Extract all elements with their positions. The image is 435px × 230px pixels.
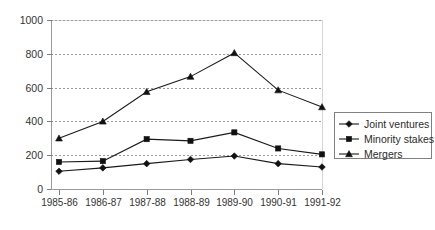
data-point-triangle — [99, 118, 106, 124]
x-tick-label: 1986-87 — [85, 197, 122, 208]
data-point-square — [232, 130, 237, 135]
chart-canvas: 020040060080010001985-861986-871987-8819… — [0, 0, 435, 230]
series-mergers — [56, 50, 326, 141]
data-point-triangle — [187, 73, 194, 79]
legend-item-label: Joint ventures — [364, 118, 429, 130]
data-point-diamond — [231, 153, 238, 160]
y-tick-label: 800 — [25, 48, 43, 60]
x-tick-label: 1989-90 — [216, 197, 253, 208]
y-tick-label: 400 — [25, 115, 43, 127]
y-tick-label: 200 — [25, 149, 43, 161]
data-point-diamond — [56, 168, 63, 175]
data-point-diamond — [100, 165, 107, 172]
data-point-square — [188, 138, 193, 143]
gridlines — [51, 21, 322, 156]
data-point-triangle — [231, 50, 238, 56]
x-tick-label: 1985-86 — [41, 197, 78, 208]
x-tick-label: 1987-88 — [129, 197, 166, 208]
y-tick-label: 600 — [25, 82, 43, 94]
legend-marker-square — [346, 136, 351, 141]
data-point-square — [56, 159, 61, 164]
data-point-square — [319, 152, 324, 157]
data-point-diamond — [187, 156, 194, 163]
data-point-diamond — [143, 160, 150, 167]
x-tick-label: 1991-92 — [304, 197, 341, 208]
line-chart: 020040060080010001985-861986-871987-8819… — [0, 0, 435, 230]
x-tick-label: 1988-89 — [173, 197, 210, 208]
legend-item-label: Mergers — [364, 148, 403, 160]
data-point-square — [100, 159, 105, 164]
data-point-square — [144, 137, 149, 142]
y-tick-label: 1000 — [20, 14, 44, 26]
legend: Joint venturesMinority stakesMergers — [335, 113, 435, 160]
legend-item-label: Minority stakes — [364, 133, 434, 145]
y-tick-label: 0 — [37, 183, 43, 195]
data-point-diamond — [319, 164, 326, 171]
x-tick-label: 1990-91 — [260, 197, 297, 208]
x-axis: 1985-861986-871987-881988-891989-901990-… — [41, 190, 341, 209]
data-point-diamond — [275, 160, 282, 167]
data-point-square — [276, 146, 281, 151]
series-line — [59, 53, 322, 138]
y-axis: 02004006008001000 — [20, 14, 52, 195]
